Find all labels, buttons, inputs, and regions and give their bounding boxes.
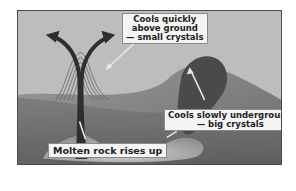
diagram-frame: Cools quickly above ground — small cryst… [17, 10, 282, 165]
label-extrusive-line3: — small crystals [126, 33, 204, 42]
label-magma: Molten rock rises up [48, 143, 167, 158]
label-magma-line1: Molten rock rises up [53, 145, 162, 156]
label-intrusive: Cools slowly underground — big crystals [164, 109, 282, 131]
label-extrusive: Cools quickly above ground — small cryst… [122, 13, 208, 44]
label-intrusive-line2: — big crystals [168, 120, 282, 129]
